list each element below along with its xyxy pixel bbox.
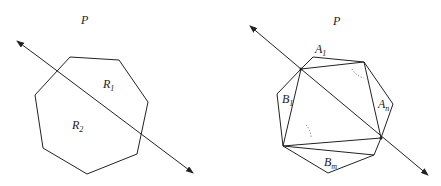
- region-label-an: An: [377, 97, 389, 113]
- left-heptagon: [35, 57, 148, 174]
- chord: [301, 62, 364, 69]
- left-cutting-line: [17, 41, 40, 58]
- region-label-r2: R2: [71, 118, 83, 134]
- left-figure: P R1 R2: [17, 13, 193, 174]
- vertex-dot: [300, 68, 303, 71]
- right-cutting-line: [250, 26, 301, 69]
- right-plane-label: P: [332, 14, 341, 28]
- vertex-dot: [380, 137, 383, 140]
- region-label-bm: Bm: [324, 155, 337, 171]
- region-label-a1: A1: [314, 42, 326, 58]
- dotted-arc-bottom: [306, 125, 311, 138]
- diagram-canvas: P R1 R2 P A1 An B1 Bm: [0, 0, 441, 186]
- left-plane-label: P: [80, 13, 89, 27]
- chord: [283, 138, 381, 146]
- dotted-arc-top: [352, 69, 364, 78]
- region-label-r1: R1: [102, 77, 114, 93]
- left-cutting-line-2: [40, 58, 193, 173]
- right-figure: P A1 An B1 Bm: [250, 14, 428, 175]
- region-label-b1: B1: [282, 92, 293, 108]
